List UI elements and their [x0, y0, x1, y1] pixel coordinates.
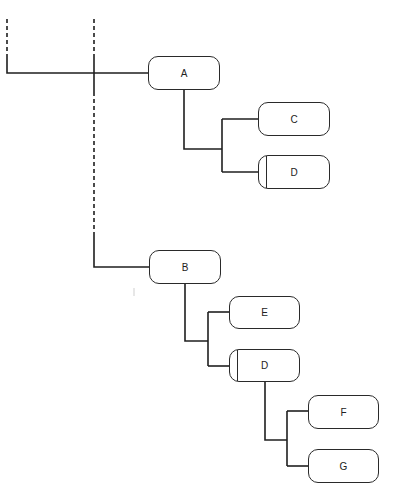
- node-g[interactable]: G: [308, 449, 379, 483]
- mid-trunk-to-b: [94, 232, 149, 267]
- b-stem: [185, 284, 208, 341]
- d2-stem: [265, 382, 287, 440]
- node-b-label: B: [182, 262, 189, 273]
- node-e[interactable]: E: [229, 296, 300, 329]
- node-c-label: C: [290, 114, 297, 125]
- node-c[interactable]: C: [258, 102, 330, 136]
- node-d-bar: [266, 156, 267, 188]
- node-d-label: D: [261, 360, 268, 371]
- left-trunk-to-a: [7, 58, 148, 73]
- node-a[interactable]: A: [148, 56, 220, 90]
- node-a-label: A: [181, 68, 188, 79]
- node-d-under-a[interactable]: D: [258, 155, 330, 189]
- node-d-bar: [237, 350, 238, 381]
- a-stem: [184, 90, 222, 149]
- node-e-label: E: [261, 307, 268, 318]
- node-b[interactable]: B: [149, 250, 221, 284]
- node-f-label: F: [340, 407, 346, 418]
- node-d-label: D: [290, 167, 297, 178]
- node-f[interactable]: F: [308, 395, 379, 429]
- node-d-under-b[interactable]: D: [229, 349, 300, 382]
- node-g-label: G: [340, 461, 348, 472]
